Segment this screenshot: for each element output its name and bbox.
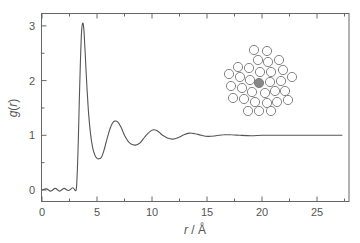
y-tick-label: 1 xyxy=(29,129,35,141)
atom-circle xyxy=(266,67,275,76)
x-tick-label: 25 xyxy=(311,206,323,218)
atom-circle xyxy=(276,76,285,85)
atom-circle xyxy=(226,81,235,90)
atom-circle xyxy=(247,87,256,96)
x-axis-tick-labels: 0510152025 xyxy=(39,206,323,218)
x-axis-label: r / Å xyxy=(184,222,206,237)
atom-inset xyxy=(224,45,296,115)
atom-circle xyxy=(245,75,254,84)
y-axis-ticks xyxy=(42,26,47,190)
y-axis-tick-labels: 0123 xyxy=(29,20,35,196)
y-tick-label: 2 xyxy=(29,75,35,87)
atom-circle xyxy=(287,72,296,81)
atom-circle xyxy=(263,57,272,66)
atom-circle xyxy=(237,83,246,92)
x-tick-label: 0 xyxy=(39,206,45,218)
atom-circle xyxy=(250,97,259,106)
x-tick-label: 20 xyxy=(256,206,268,218)
atom-circle xyxy=(244,63,253,72)
gr-curve xyxy=(42,23,342,191)
x-tick-label: 15 xyxy=(201,206,213,218)
reference-atom-circle xyxy=(254,78,263,87)
atom-circle xyxy=(283,95,292,104)
atom-circle xyxy=(265,77,274,86)
y-axis-label: g(r) xyxy=(6,99,20,118)
atom-circle xyxy=(266,106,275,115)
atom-circle xyxy=(274,55,283,64)
atom-circle xyxy=(280,86,289,95)
atom-circle xyxy=(243,106,252,115)
y-tick-label: 3 xyxy=(29,20,35,32)
x-axis-label-unit: / Å xyxy=(188,222,206,237)
atom-circle xyxy=(239,94,248,103)
atom-circle xyxy=(224,69,233,78)
atom-circle xyxy=(249,45,258,54)
y-tick-label: 0 xyxy=(29,184,35,196)
rdf-chart: 0510152025 0123 r / Å g(r) r / Å g(r) xyxy=(0,0,360,243)
atom-circle xyxy=(270,86,279,95)
x-tick-label: 5 xyxy=(94,206,100,218)
y-axis-label-paren-close: ) xyxy=(6,99,20,103)
atom-circle xyxy=(228,93,237,102)
x-tick-label: 10 xyxy=(146,206,158,218)
atom-circle xyxy=(235,72,244,81)
atom-circle xyxy=(272,97,281,106)
atom-circle xyxy=(260,88,269,97)
atom-circle xyxy=(278,65,287,74)
atom-circle xyxy=(255,67,264,76)
atom-circle xyxy=(262,46,271,55)
atom-circle xyxy=(254,106,263,115)
atom-circle xyxy=(253,55,262,64)
x-axis-ticks xyxy=(42,14,345,202)
atom-circle xyxy=(233,62,242,71)
